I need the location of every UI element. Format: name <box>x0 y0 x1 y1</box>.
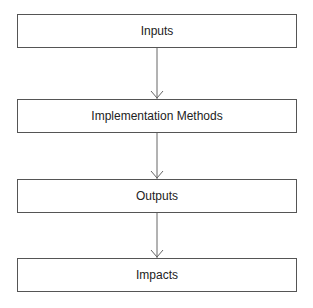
arrow-implementation-to-outputs <box>151 133 163 179</box>
arrow-outputs-to-impacts <box>151 213 163 258</box>
arrow-inputs-to-implementation <box>151 48 163 99</box>
connector-layer <box>0 0 313 308</box>
